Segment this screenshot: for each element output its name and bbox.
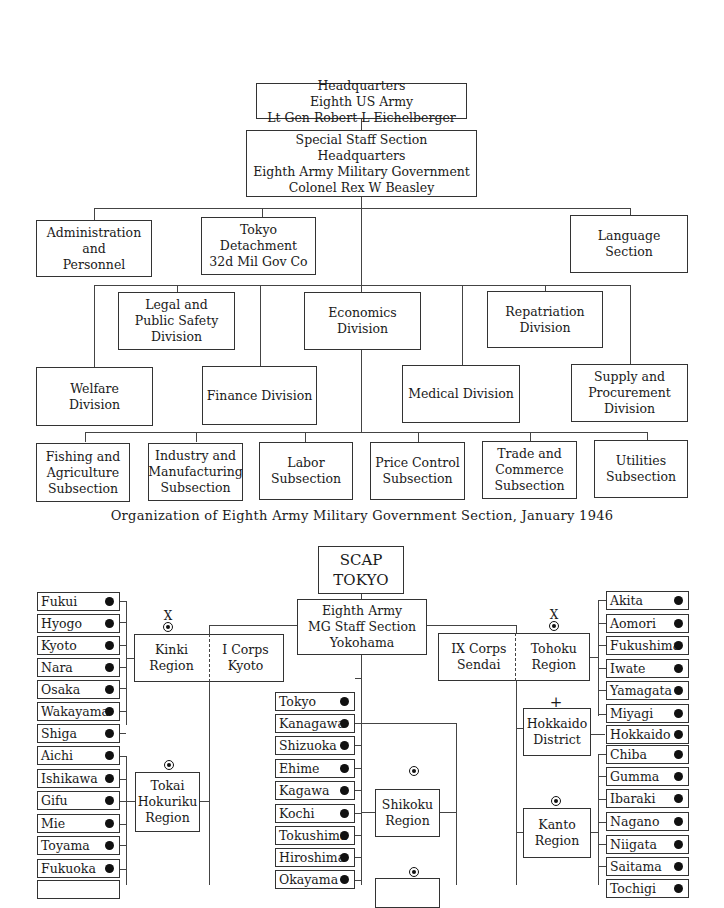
prefecture-item: Tokushima: [275, 826, 355, 845]
box-line: Division: [337, 321, 388, 337]
headquarters-bullseye-icon: [551, 796, 561, 806]
prefecture-item: Aomori: [606, 614, 689, 633]
prefecture-dot-icon: [674, 794, 683, 803]
box-line: Utilities: [616, 453, 666, 469]
price-control-subsection-box: Price Control Subsection: [370, 442, 465, 500]
prefecture-dot-icon: [105, 864, 114, 873]
headquarters-bullseye-icon: [164, 760, 174, 770]
connector: [85, 432, 647, 433]
prefecture-dot-icon: [105, 774, 114, 783]
prefecture-item: Ibaraki: [606, 789, 689, 808]
box-line: TOKYO: [333, 570, 388, 590]
labor-subsection-box: Labor Subsection: [259, 442, 353, 500]
box-line: 32d Mil Gov Co: [209, 254, 307, 270]
box-line: Price Control: [375, 455, 459, 471]
box-line: Public Safety: [135, 313, 219, 329]
prefecture-item: Kagawa: [275, 781, 355, 800]
ix-corps-sendai-label: IX Corps Sendai: [451, 641, 506, 673]
box-line: Eighth Army Military Government: [253, 164, 470, 180]
supply-procurement-division-box: Supply and Procurement Division: [571, 364, 688, 422]
connector: [85, 432, 86, 442]
prefecture-item: Iwate: [606, 659, 689, 678]
box-line: Language: [598, 228, 661, 244]
connector: [630, 285, 631, 367]
prefecture-item: Nagano: [606, 812, 689, 831]
headquarters-bullseye-icon: [409, 766, 419, 776]
prefecture-item: Kochi: [275, 804, 355, 823]
connector: [199, 801, 209, 802]
box-line: Division: [519, 320, 570, 336]
box-line: Subsection: [160, 480, 230, 496]
prefecture-item: Shiga: [37, 724, 120, 743]
box-line: Subsection: [271, 471, 341, 487]
connector: [94, 285, 95, 367]
box-line: Eighth Army: [322, 603, 402, 619]
prefecture-item: Akita: [606, 591, 689, 610]
prefecture-item: Hyogo: [37, 614, 120, 633]
box-line: Special Staff Section: [296, 132, 428, 148]
tokai-hokuriku-region-box: Tokai Hokuriku Region: [135, 772, 200, 832]
corps-x-symbol-icon: X: [547, 609, 561, 621]
trade-commerce-subsection-box: Trade and Commerce Subsection: [482, 441, 577, 499]
connector: [418, 432, 419, 442]
box-line: Medical Division: [408, 386, 514, 402]
box-line: Subsection: [382, 471, 452, 487]
language-section-box: Language Section: [570, 215, 688, 273]
prefecture-item: Osaka: [37, 680, 120, 699]
connector: [126, 869, 127, 885]
connector: [355, 723, 456, 724]
connector: [590, 832, 598, 833]
prefecture-dot-icon: [674, 884, 683, 893]
connector: [456, 723, 457, 885]
prefecture-dot-icon: [105, 663, 114, 672]
prefecture-dot-icon: [674, 686, 683, 695]
box-line: Subsection: [48, 481, 118, 497]
connector: [591, 734, 605, 735]
prefecture-item: Ishikawa: [37, 769, 120, 788]
prefecture-dot-icon: [674, 817, 683, 826]
special-staff-section-box: Special Staff Section Headquarters Eight…: [246, 130, 477, 197]
prefecture-item: Okayama: [275, 870, 355, 889]
box-line: Repatriation: [505, 304, 584, 320]
prefecture-dot-icon: [674, 840, 683, 849]
box-line: Legal and: [145, 297, 208, 313]
connector: [516, 832, 523, 833]
box-line: Subsection: [606, 469, 676, 485]
industry-manufacturing-subsection-box: Industry and Manufacturing Subsection: [148, 443, 243, 501]
connector: [426, 625, 516, 626]
prefecture-item: Chiba: [606, 745, 689, 764]
box-line: Division: [151, 329, 202, 345]
box-line: Procurement: [588, 385, 671, 401]
box-line: MG Staff Section: [308, 619, 416, 635]
district-cross-icon: +: [549, 696, 563, 708]
connector: [361, 350, 362, 432]
prefecture-dot-icon: [105, 841, 114, 850]
connector: [126, 601, 127, 725]
fishing-agriculture-subsection-box: Fishing and Agriculture Subsection: [36, 443, 130, 502]
box-line: Economics: [328, 305, 397, 321]
prefecture-dot-icon: [340, 875, 349, 884]
prefecture-dot-icon: [340, 697, 349, 706]
prefecture-item: Fukuoka: [37, 859, 120, 878]
prefecture-item: Kanagawa: [275, 714, 355, 733]
box-line: Section: [605, 244, 653, 260]
prefecture-item: Gumma: [606, 767, 689, 786]
prefecture-dot-icon: [340, 831, 349, 840]
prefecture-dot-icon: [105, 641, 114, 650]
connector: [126, 801, 135, 802]
box-line: Finance Division: [207, 388, 313, 404]
prefecture-item: Fukushima: [606, 636, 689, 655]
box-line: Welfare: [70, 381, 119, 397]
prefecture-dot-icon: [674, 709, 683, 718]
prefecture-item-partial: Kumamoto: [37, 880, 120, 899]
hq-eighth-army-box: Headquarters Eighth US Army Lt Gen Rober…: [256, 83, 467, 119]
prefecture-dot-icon: [674, 730, 683, 739]
headquarters-bullseye-icon: [163, 622, 173, 632]
prefecture-item: Saitama: [606, 857, 689, 876]
kinki-region-label: Kinki Region: [149, 642, 193, 674]
box-line: Commerce: [495, 462, 564, 478]
box-line: Colonel Rex W Beasley: [289, 180, 435, 196]
connector: [209, 625, 297, 626]
box-line: Headquarters: [317, 148, 405, 164]
connector: [94, 208, 630, 209]
